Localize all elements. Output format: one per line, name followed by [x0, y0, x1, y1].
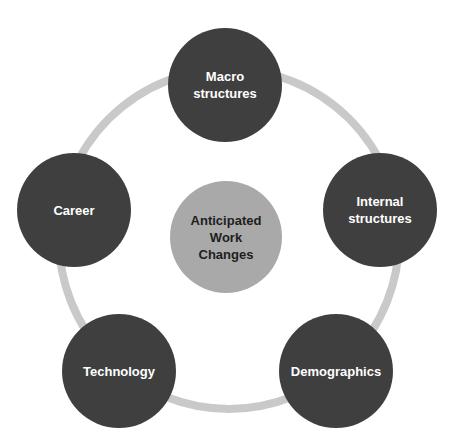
node-label: Career	[47, 202, 100, 219]
node-internal-structures[interactable]: Internal structures	[323, 153, 437, 267]
node-label: Demographics	[285, 363, 387, 380]
node-technology[interactable]: Technology	[62, 314, 176, 428]
node-label: Technology	[77, 363, 161, 380]
center-node-anticipated-work-changes: Anticipated Work Changes	[170, 181, 282, 293]
node-macro-structures[interactable]: Macro structures	[168, 28, 282, 142]
center-label: Anticipated Work Changes	[191, 212, 262, 263]
node-demographics[interactable]: Demographics	[279, 314, 393, 428]
node-label: Internal structures	[342, 193, 418, 227]
node-label: Macro structures	[187, 68, 263, 102]
node-career[interactable]: Career	[17, 153, 131, 267]
